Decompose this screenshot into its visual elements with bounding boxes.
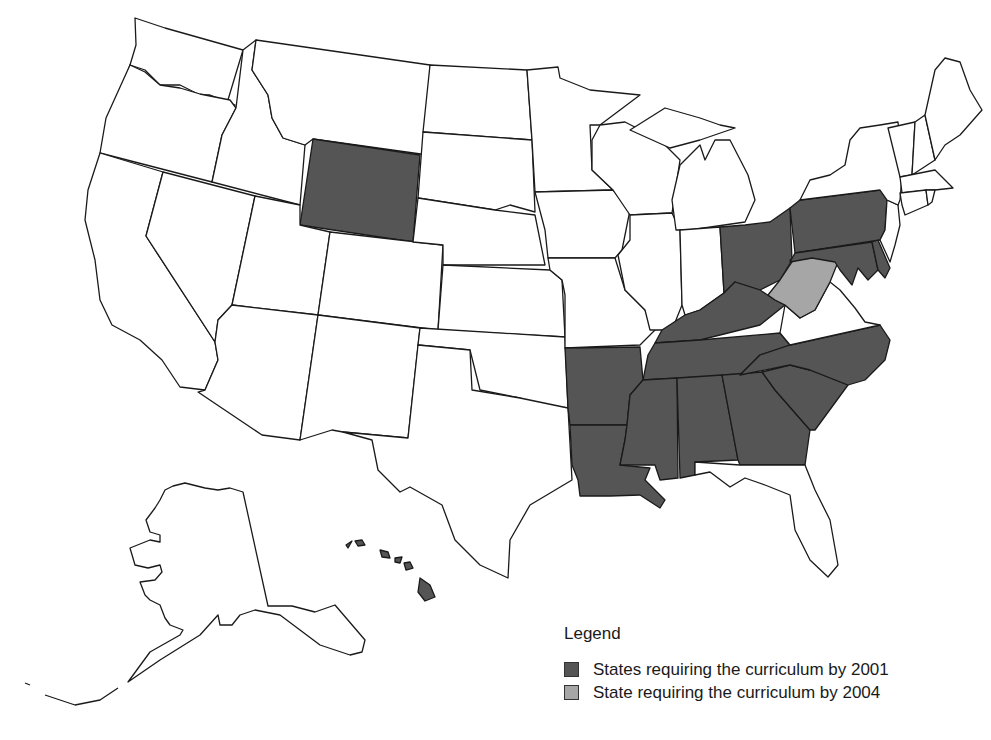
state-iowa — [535, 190, 630, 258]
legend-swatch-light — [564, 685, 579, 700]
state-alaska — [128, 483, 365, 682]
state-wyoming — [300, 139, 420, 242]
legend-label-2004: State requiring the curriculum by 2004 — [593, 683, 880, 703]
state-maine — [925, 58, 982, 160]
legend-item-2001: States requiring the curriculum by 2001 — [564, 658, 889, 681]
state-kansas — [438, 265, 565, 337]
legend-swatch-dark — [564, 662, 579, 677]
state-south-dakota — [418, 132, 535, 212]
state-connecticut — [900, 190, 928, 215]
state-colorado — [318, 232, 443, 330]
state-rhode-island — [926, 190, 935, 205]
state-new-york — [800, 122, 903, 205]
state-florida — [695, 462, 838, 577]
legend: Legend States requiring the curriculum b… — [564, 624, 889, 704]
legend-label-2001: States requiring the curriculum by 2001 — [593, 660, 889, 680]
state-hawaii — [346, 540, 435, 601]
legend-title: Legend — [564, 624, 889, 644]
alaska-aleutian-islands — [25, 683, 118, 705]
legend-item-2004: State requiring the curriculum by 2004 — [564, 681, 889, 704]
state-north-dakota — [423, 65, 532, 140]
state-new-mexico — [300, 315, 420, 440]
